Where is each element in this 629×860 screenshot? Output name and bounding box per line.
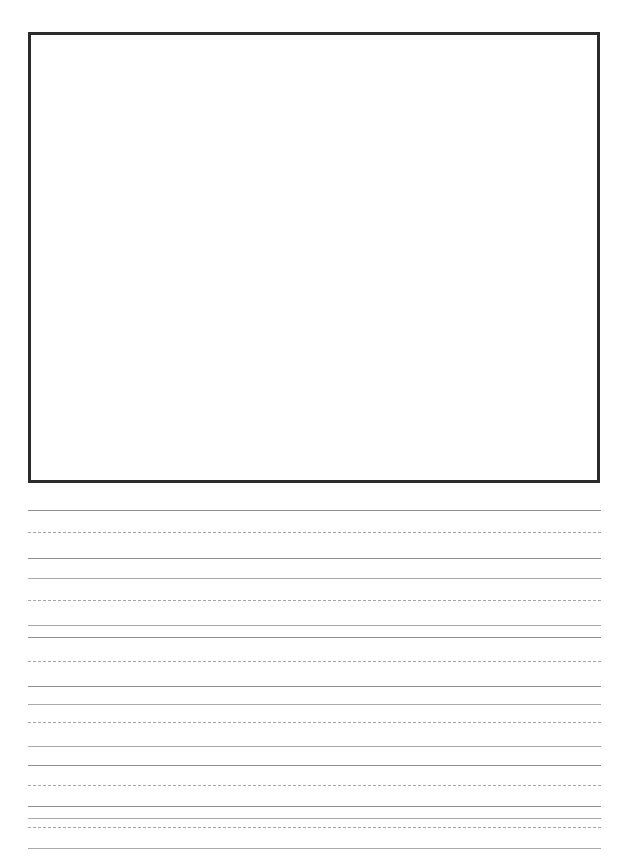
ruling-line-solid (28, 765, 601, 766)
drawing-box-border-right (597, 32, 600, 483)
ruling-line-solid (28, 637, 601, 638)
worksheet-page (0, 0, 629, 860)
ruling-line-solid (28, 746, 601, 747)
ruling-line-solid (28, 578, 601, 579)
ruling-line-dashed (28, 785, 601, 786)
ruling-line-solid (28, 848, 601, 849)
ruling-line-dashed (28, 722, 601, 723)
ruling-line-solid (28, 704, 601, 705)
ruling-line-solid (28, 806, 601, 807)
ruling-line-dashed (28, 661, 601, 662)
drawing-box[interactable] (28, 32, 600, 483)
ruling-line-solid (28, 818, 601, 819)
ruling-line-solid (28, 510, 601, 511)
ruling-line-solid (28, 558, 601, 559)
drawing-box-border-bottom (28, 480, 600, 483)
ruling-line-dashed (28, 532, 601, 533)
ruling-line-solid (28, 686, 601, 687)
ruling-line-solid (28, 625, 601, 626)
ruling-line-dashed (28, 827, 601, 828)
drawing-box-interior[interactable] (31, 35, 597, 480)
ruling-line-dashed (28, 600, 601, 601)
